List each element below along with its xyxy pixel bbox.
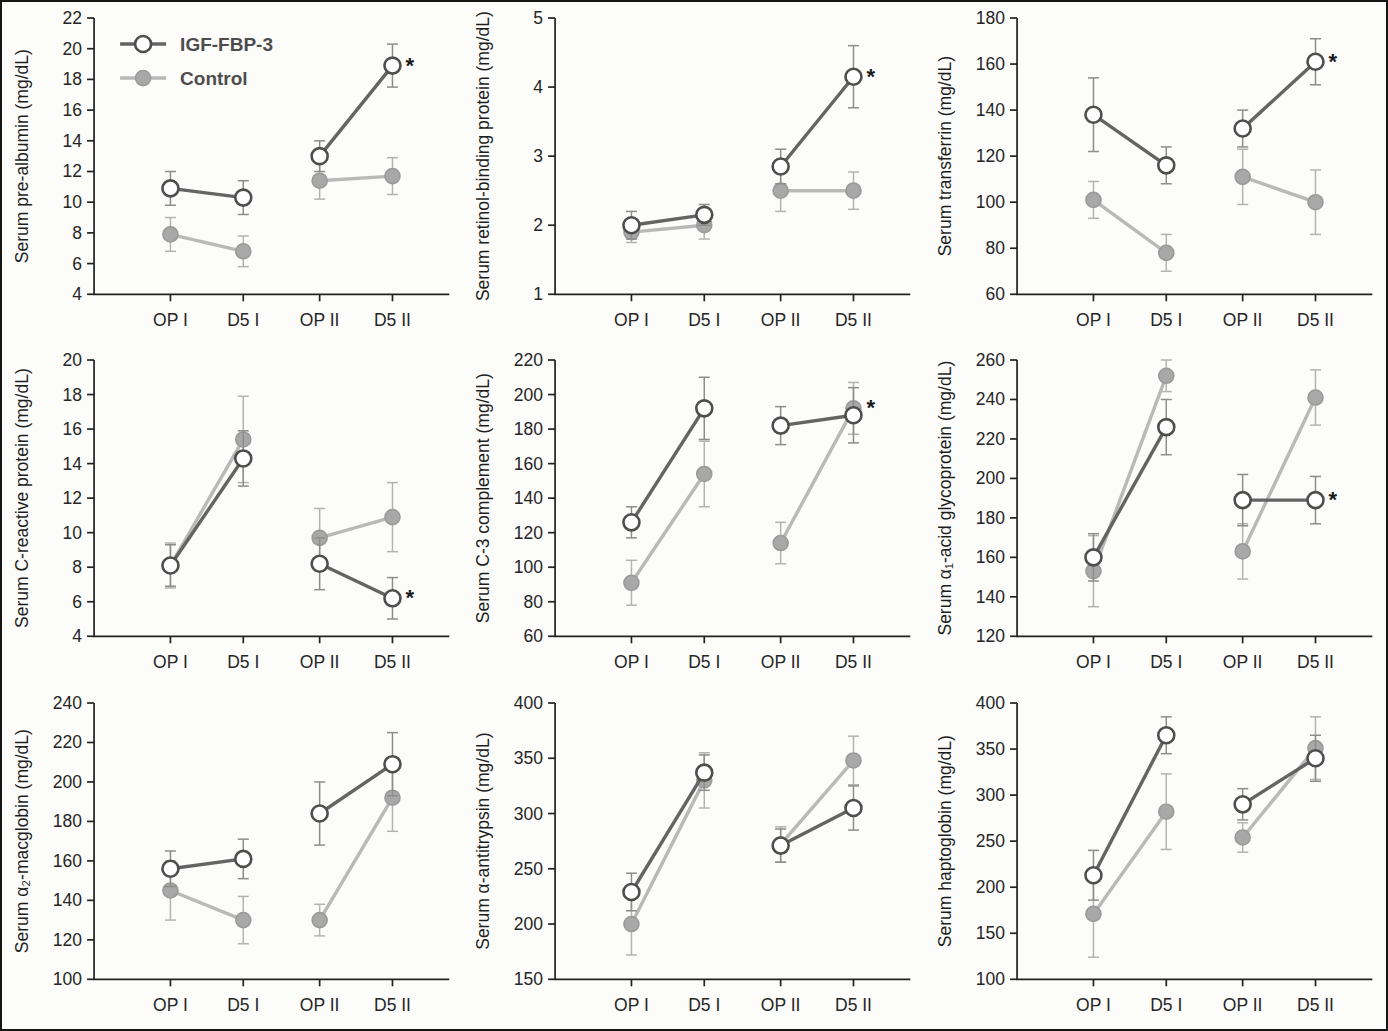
- y-tick-label: 150: [514, 969, 543, 989]
- y-tick-label: 160: [976, 548, 1005, 568]
- y-axis-label: Serum α₁-acid glycoprotein (mg/dL): [935, 361, 955, 636]
- x-tick-label: D5 I: [689, 310, 721, 330]
- y-tick-label: 200: [514, 385, 543, 405]
- control-line-segment: [1242, 177, 1315, 202]
- x-tick-label: OP II: [761, 310, 801, 330]
- y-tick-label: 14: [63, 454, 83, 474]
- control-marker: [1235, 544, 1250, 559]
- igf-line-segment: [1093, 735, 1166, 875]
- igf-line-segment: [320, 764, 393, 813]
- control-marker: [1235, 169, 1250, 184]
- x-tick-label: D5 II: [1297, 995, 1334, 1015]
- x-tick-label: OP I: [153, 995, 188, 1015]
- y-tick-label: 8: [72, 223, 82, 243]
- y-tick-label: 120: [976, 146, 1005, 166]
- x-tick-label: OP II: [300, 310, 340, 330]
- y-tick-label: 20: [63, 39, 83, 59]
- igf-marker: [235, 190, 251, 206]
- control-line-segment: [320, 797, 393, 919]
- y-tick-label: 80: [524, 592, 544, 612]
- series-control: [624, 383, 861, 606]
- x-tick-label: OP II: [1223, 653, 1263, 673]
- igf-marker: [697, 764, 713, 780]
- series-igf: [624, 755, 862, 911]
- control-line-segment: [781, 760, 854, 844]
- y-axis-label: Serum haptoglobin (mg/dL): [935, 735, 955, 947]
- igf-marker: [1158, 727, 1174, 743]
- igf-marker: [697, 207, 713, 223]
- x-tick-label: D5 I: [1150, 995, 1182, 1015]
- y-tick-label: 20: [63, 350, 83, 370]
- y-tick-label: 250: [976, 831, 1005, 851]
- x-tick-label: D5 I: [227, 310, 259, 330]
- y-tick-label: 100: [976, 969, 1005, 989]
- control-marker: [163, 227, 178, 242]
- y-tick-label: 180: [976, 8, 1005, 28]
- control-marker: [697, 467, 712, 482]
- igf-marker: [1307, 750, 1323, 766]
- y-tick-label: 220: [976, 429, 1005, 449]
- significance-asterisk: *: [1328, 49, 1337, 74]
- chart-panel-haptoglobin: 100150200250300350400OP ID5 IOP IID5 IIS…: [925, 687, 1386, 1029]
- chart-panel-alpha2-macglobin: 100120140160180200220240OP ID5 IOP IID5 …: [2, 687, 463, 1029]
- y-tick-label: 300: [514, 803, 543, 823]
- control-line-segment: [1093, 376, 1166, 571]
- igf-line-segment: [1242, 62, 1315, 129]
- igf-marker: [624, 515, 640, 531]
- y-tick-label: 140: [976, 100, 1005, 120]
- control-marker: [1158, 804, 1173, 819]
- control-marker: [1235, 830, 1250, 845]
- igf-line-segment: [1242, 758, 1315, 804]
- y-tick-label: 220: [514, 350, 543, 370]
- y-tick-label: 240: [976, 390, 1005, 410]
- igf-marker: [162, 860, 178, 876]
- y-tick-label: 350: [514, 748, 543, 768]
- control-marker: [312, 912, 327, 927]
- series-control: [1086, 716, 1323, 956]
- y-tick-label: 160: [976, 54, 1005, 74]
- igf-line-segment: [632, 215, 705, 225]
- x-tick-label: D5 II: [835, 310, 872, 330]
- x-tick-label: OP II: [1223, 310, 1263, 330]
- axes: 150200250300350400OP ID5 IOP IID5 II: [514, 693, 910, 1015]
- igf-marker: [697, 401, 713, 417]
- y-tick-label: 2: [534, 215, 544, 235]
- y-tick-label: 150: [976, 923, 1005, 943]
- igf-line-segment: [632, 409, 705, 523]
- y-tick-label: 200: [514, 914, 543, 934]
- y-axis-label: Serum retinol-binding protein (mg/dL): [473, 11, 493, 301]
- legend-marker-igf: [135, 36, 151, 52]
- y-tick-label: 12: [63, 161, 82, 181]
- y-tick-label: 160: [53, 851, 82, 871]
- y-tick-label: 300: [976, 785, 1005, 805]
- x-tick-label: OP II: [761, 653, 801, 673]
- chart-panel-alpha1-acid-glycoprotein: 120140160180200220240260OP ID5 IOP IID5 …: [925, 344, 1386, 686]
- control-marker: [385, 510, 400, 525]
- y-tick-label: 250: [514, 858, 543, 878]
- igf-marker: [773, 418, 789, 434]
- figure-frame: 46810121416182022OP ID5 IOP IID5 IISerum…: [0, 0, 1388, 1031]
- y-tick-label: 120: [976, 627, 1005, 647]
- y-tick-label: 14: [63, 131, 83, 151]
- x-tick-label: OP II: [300, 653, 340, 673]
- x-tick-label: D5 II: [374, 653, 411, 673]
- control-marker: [236, 912, 251, 927]
- igf-marker: [1307, 54, 1323, 70]
- legend: IGF-FBP-3Control: [120, 34, 273, 89]
- igf-line-segment: [781, 808, 854, 846]
- series-control: [163, 397, 400, 589]
- control-marker: [624, 576, 639, 591]
- y-tick-label: 120: [53, 929, 82, 949]
- control-marker: [624, 916, 639, 931]
- axes: 6080100120140160180200220OP ID5 IOP IID5…: [514, 350, 910, 672]
- y-axis-label: Serum C-reactive protein (mg/dL): [12, 369, 32, 629]
- y-tick-label: 100: [514, 558, 543, 578]
- igf-marker: [846, 800, 862, 816]
- control-line-segment: [320, 176, 393, 181]
- igf-marker: [846, 69, 862, 85]
- chart-panel-alpha-antitrypsin: 150200250300350400OP ID5 IOP IID5 IISeru…: [463, 687, 924, 1029]
- x-tick-label: OP I: [614, 653, 649, 673]
- x-tick-label: D5 I: [1150, 653, 1182, 673]
- y-tick-label: 200: [53, 772, 82, 792]
- x-tick-label: D5 II: [374, 310, 411, 330]
